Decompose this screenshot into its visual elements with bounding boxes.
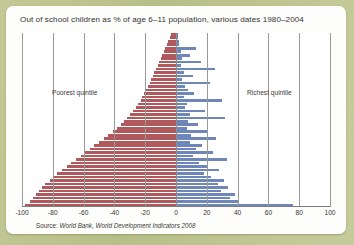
- bar-poorest-quintile: [161, 57, 176, 60]
- bar-poorest-quintile: [108, 134, 176, 137]
- bar-richest-quintile: [176, 85, 185, 88]
- bar-poorest-quintile: [42, 186, 176, 189]
- bar-richest-quintile: [176, 89, 188, 92]
- figure-source: Source: World Bank, World Development In…: [36, 222, 196, 229]
- figure-card: Out of school children as % of age 6–11 …: [6, 6, 346, 234]
- bar-poorest-quintile: [30, 200, 176, 203]
- bar-richest-quintile: [176, 54, 190, 57]
- bar-poorest-quintile: [39, 190, 176, 193]
- bar-poorest-quintile: [121, 123, 176, 126]
- x-tick-label: -40: [110, 209, 120, 216]
- bar-poorest-quintile: [144, 92, 176, 95]
- bar-richest-quintile: [176, 99, 222, 102]
- bar-poorest-quintile: [36, 193, 176, 196]
- bar-poorest-quintile: [154, 71, 176, 74]
- bar-poorest-quintile: [50, 179, 176, 182]
- x-axis-line: [22, 206, 330, 207]
- bar-poorest-quintile: [71, 162, 176, 165]
- figure-title: Out of school children as % of age 6–11 …: [20, 15, 336, 24]
- bar-richest-quintile: [176, 144, 202, 147]
- zero-axis-line: [176, 33, 177, 207]
- bar-richest-quintile: [176, 179, 224, 182]
- bar-poorest-quintile: [62, 169, 176, 172]
- x-tick-label: -100: [15, 209, 28, 216]
- bar-poorest-quintile: [167, 43, 176, 46]
- source-text: World Bank, World Development Indicators…: [59, 222, 195, 229]
- bar-richest-quintile: [176, 169, 219, 172]
- bar-poorest-quintile: [130, 113, 176, 116]
- bar-richest-quintile: [176, 75, 193, 78]
- bar-richest-quintile: [176, 158, 227, 161]
- bar-richest-quintile: [176, 190, 221, 193]
- source-label: Source:: [36, 222, 59, 229]
- bar-poorest-quintile: [162, 54, 176, 57]
- bar-richest-quintile: [176, 148, 196, 151]
- bar-poorest-quintile: [145, 89, 176, 92]
- bar-richest-quintile: [176, 106, 185, 109]
- bar-poorest-quintile: [33, 197, 176, 200]
- bar-poorest-quintile: [142, 96, 176, 99]
- bar-poorest-quintile: [159, 61, 176, 64]
- x-tick-label: 60: [265, 209, 272, 216]
- bar-poorest-quintile: [133, 110, 176, 113]
- x-tick-label: 0: [174, 209, 178, 216]
- bar-poorest-quintile: [85, 151, 176, 154]
- bar-poorest-quintile: [90, 148, 176, 151]
- bar-richest-quintile: [176, 183, 218, 186]
- bar-richest-quintile: [176, 117, 225, 120]
- bar-richest-quintile: [176, 92, 194, 95]
- bar-poorest-quintile: [153, 75, 176, 78]
- bar-richest-quintile: [176, 155, 193, 158]
- bar-richest-quintile: [176, 165, 207, 168]
- annotation-poorest-quintile: Poorest quintile: [52, 89, 97, 96]
- bar-poorest-quintile: [164, 50, 176, 53]
- bar-richest-quintile: [176, 172, 204, 175]
- page-background: Out of school children as % of age 6–11 …: [0, 0, 354, 245]
- bar-poorest-quintile: [150, 82, 176, 85]
- bar-richest-quintile: [176, 82, 210, 85]
- x-tick-label: -60: [79, 209, 89, 216]
- bar-poorest-quintile: [138, 103, 177, 106]
- bar-richest-quintile: [176, 71, 184, 74]
- bar-richest-quintile: [176, 141, 190, 144]
- bar-poorest-quintile: [45, 183, 176, 186]
- bar-poorest-quintile: [136, 106, 176, 109]
- bar-poorest-quintile: [156, 68, 176, 71]
- gridline-20: [207, 33, 208, 207]
- bar-poorest-quintile: [94, 144, 176, 147]
- bar-richest-quintile: [176, 103, 187, 106]
- x-axis-ticks: -100-80-60-40-20020406080100: [22, 209, 330, 221]
- gridline--80: [53, 33, 54, 207]
- gridline--20: [145, 33, 146, 207]
- bar-richest-quintile: [176, 137, 216, 140]
- x-tick-label: 80: [296, 209, 303, 216]
- bar-poorest-quintile: [81, 155, 176, 158]
- gridline-100: [330, 33, 331, 207]
- bar-poorest-quintile: [168, 40, 176, 43]
- bar-richest-quintile: [176, 123, 198, 126]
- x-tick-label: -80: [48, 209, 58, 216]
- bar-poorest-quintile: [117, 127, 176, 130]
- gridline-40: [238, 33, 239, 207]
- bar-richest-quintile: [176, 186, 228, 189]
- x-tick-label: 40: [234, 209, 241, 216]
- gridline--100: [22, 33, 23, 207]
- bar-richest-quintile: [176, 193, 235, 196]
- bar-richest-quintile: [176, 120, 188, 123]
- bar-poorest-quintile: [57, 172, 176, 175]
- bar-richest-quintile: [176, 127, 187, 130]
- bar-richest-quintile: [176, 113, 190, 116]
- bar-poorest-quintile: [76, 158, 176, 161]
- x-tick-label: 100: [324, 209, 335, 216]
- bar-richest-quintile: [176, 110, 205, 113]
- bar-richest-quintile: [176, 162, 199, 165]
- bar-poorest-quintile: [148, 85, 176, 88]
- bar-poorest-quintile: [127, 117, 176, 120]
- bar-richest-quintile: [176, 68, 215, 71]
- x-tick-label: -20: [140, 209, 150, 216]
- bar-poorest-quintile: [165, 47, 176, 50]
- gridline--40: [114, 33, 115, 207]
- bar-richest-quintile: [176, 197, 230, 200]
- chart-plot-area: Poorest quintile Richest quintile: [22, 33, 330, 207]
- bar-richest-quintile: [176, 96, 184, 99]
